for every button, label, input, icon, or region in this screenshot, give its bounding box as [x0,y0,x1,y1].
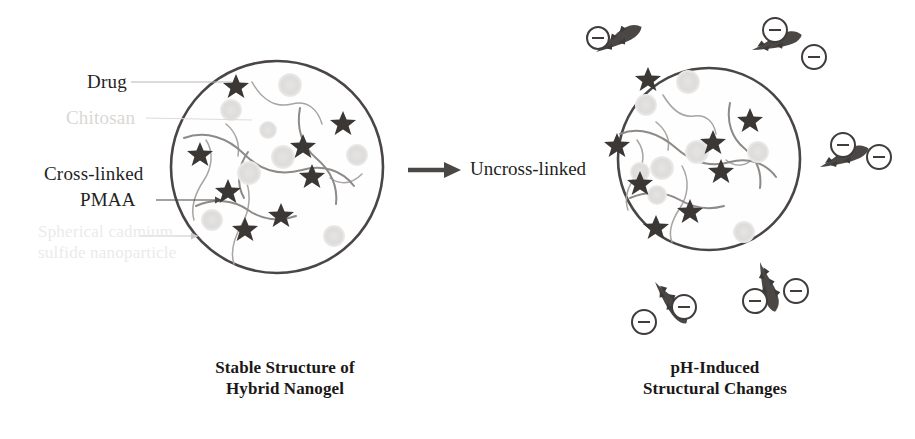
negative-charge [802,45,826,69]
negative-charge [587,27,609,49]
label-cross-linked: Cross-linked [44,163,144,185]
caption-left-line2: Hybrid Nanogel [140,378,430,399]
negative-charge [632,310,656,334]
negative-charge [784,279,808,303]
left-nanogel-circle [171,61,383,273]
transition-arrow [408,162,461,178]
negative-charge [672,295,696,319]
caption-left-panel: Stable Structure of Hybrid Nanogel [140,357,430,399]
negative-charge [831,133,855,157]
negative-charge [763,18,787,42]
caption-right-line1: pH-Induced [590,357,840,378]
caption-right-panel: pH-Induced Structural Changes [590,357,840,399]
caption-right-line2: Structural Changes [590,378,840,399]
negative-charge [743,289,767,313]
figure-canvas: Drug Chitosan Cross-linked PMAA Spherica… [0,0,915,439]
label-nanoparticle-line1: Spherical cadmium [38,222,173,242]
label-drug: Drug [87,71,127,93]
caption-left-line1: Stable Structure of [140,357,430,378]
right-nanogel-circle [604,67,800,250]
label-nanoparticle-line2: sulfide nanoparticle [38,243,177,263]
label-uncross-linked: Uncross-linked [470,158,586,180]
label-chitosan: Chitosan [66,107,135,129]
negative-charge [867,145,891,169]
label-pmaa: PMAA [80,189,136,211]
